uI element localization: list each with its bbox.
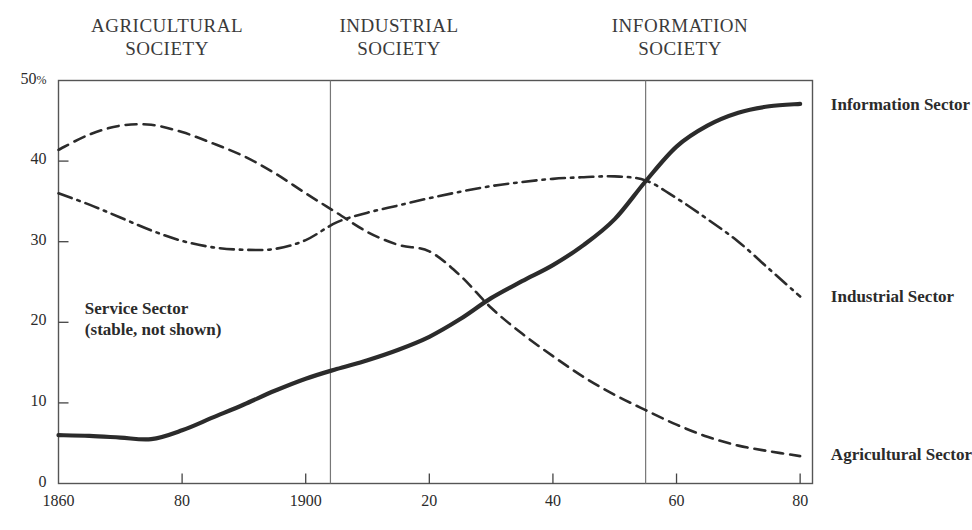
series-label-industrial-sector: Industrial Sector: [831, 287, 954, 307]
x-tick-label: 60: [632, 492, 722, 510]
series-label-agricultural-sector: Agricultural Sector: [831, 445, 972, 465]
y-tick-label: 30: [0, 231, 47, 249]
plot-frame: [59, 81, 813, 484]
annotation-service-sector: Service Sector (stable, not shown): [85, 298, 222, 340]
x-tick-label: 80: [755, 492, 845, 510]
x-tick-label: 20: [384, 492, 474, 510]
x-tick-label: 1900: [261, 492, 351, 510]
x-tick-label: 40: [508, 492, 598, 510]
y-tick-label: 40: [0, 150, 47, 168]
era-title-1: INDUSTRIAL SOCIETY: [290, 14, 508, 60]
y-tick-label: 50%: [0, 70, 47, 88]
y-tick-label: 20: [0, 311, 47, 329]
x-tick-label: 1860: [14, 492, 104, 510]
y-tick-label: 0: [0, 473, 47, 491]
y-tick-label: 10: [0, 392, 47, 410]
series-line-industrial-sector: [59, 176, 801, 296]
series-line-agricultural-sector: [59, 124, 801, 456]
y-axis-unit: %: [37, 73, 47, 87]
era-title-2: INFORMATION SOCIETY: [540, 14, 820, 60]
series-label-information-sector: Information Sector: [831, 95, 970, 115]
series-line-information-sector: [59, 104, 801, 440]
era-title-0: AGRICULTURAL SOCIETY: [27, 14, 307, 60]
x-tick-label: 80: [137, 492, 227, 510]
